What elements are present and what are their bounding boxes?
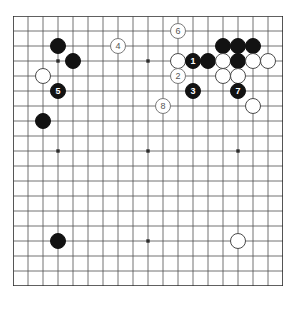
move-stone-6[interactable]: 6: [170, 23, 186, 39]
star-point: [146, 149, 149, 152]
stone-white[interactable]: [215, 68, 231, 84]
star-point: [146, 239, 149, 242]
stone-black[interactable]: [230, 38, 246, 54]
stone-black[interactable]: [50, 233, 66, 249]
move-stone-2[interactable]: 2: [170, 68, 186, 84]
stone-white[interactable]: [260, 53, 276, 69]
stone-white[interactable]: [215, 53, 231, 69]
stone-white[interactable]: [230, 68, 246, 84]
stone-white[interactable]: [245, 98, 261, 114]
stone-black[interactable]: [230, 53, 246, 69]
stone-black[interactable]: [35, 113, 51, 129]
move-stone-4[interactable]: 4: [110, 38, 126, 54]
star-point: [146, 59, 149, 62]
move-stone-5[interactable]: 5: [50, 83, 66, 99]
move-stone-7[interactable]: 7: [230, 83, 246, 99]
stone-black[interactable]: [65, 53, 81, 69]
stone-black[interactable]: [50, 38, 66, 54]
stone-white[interactable]: [245, 53, 261, 69]
move-stone-1[interactable]: 1: [185, 53, 201, 69]
stone-black[interactable]: [245, 38, 261, 54]
stone-black[interactable]: [200, 53, 216, 69]
go-board-figure: 54628137: [0, 0, 293, 310]
stone-black[interactable]: [215, 38, 231, 54]
move-stone-8[interactable]: 8: [155, 98, 171, 114]
stone-white[interactable]: [35, 68, 51, 84]
star-point: [56, 149, 59, 152]
stone-white[interactable]: [170, 53, 186, 69]
goban[interactable]: 54628137: [13, 16, 283, 286]
move-stone-3[interactable]: 3: [185, 83, 201, 99]
stone-white[interactable]: [230, 233, 246, 249]
star-point: [56, 59, 59, 62]
star-point: [236, 149, 239, 152]
